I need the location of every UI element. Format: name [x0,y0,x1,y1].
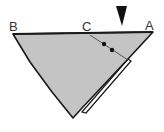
label-C: C [82,19,91,34]
down-arrow-icon [116,6,127,26]
point-dot-2 [110,48,114,52]
diagram-canvas: B C A [0,0,164,132]
label-A: A [145,18,154,33]
main-triangle [13,32,153,118]
label-B: B [9,19,18,34]
folded-triangle-diagram: B C A [0,0,164,132]
point-dot-1 [102,42,106,46]
